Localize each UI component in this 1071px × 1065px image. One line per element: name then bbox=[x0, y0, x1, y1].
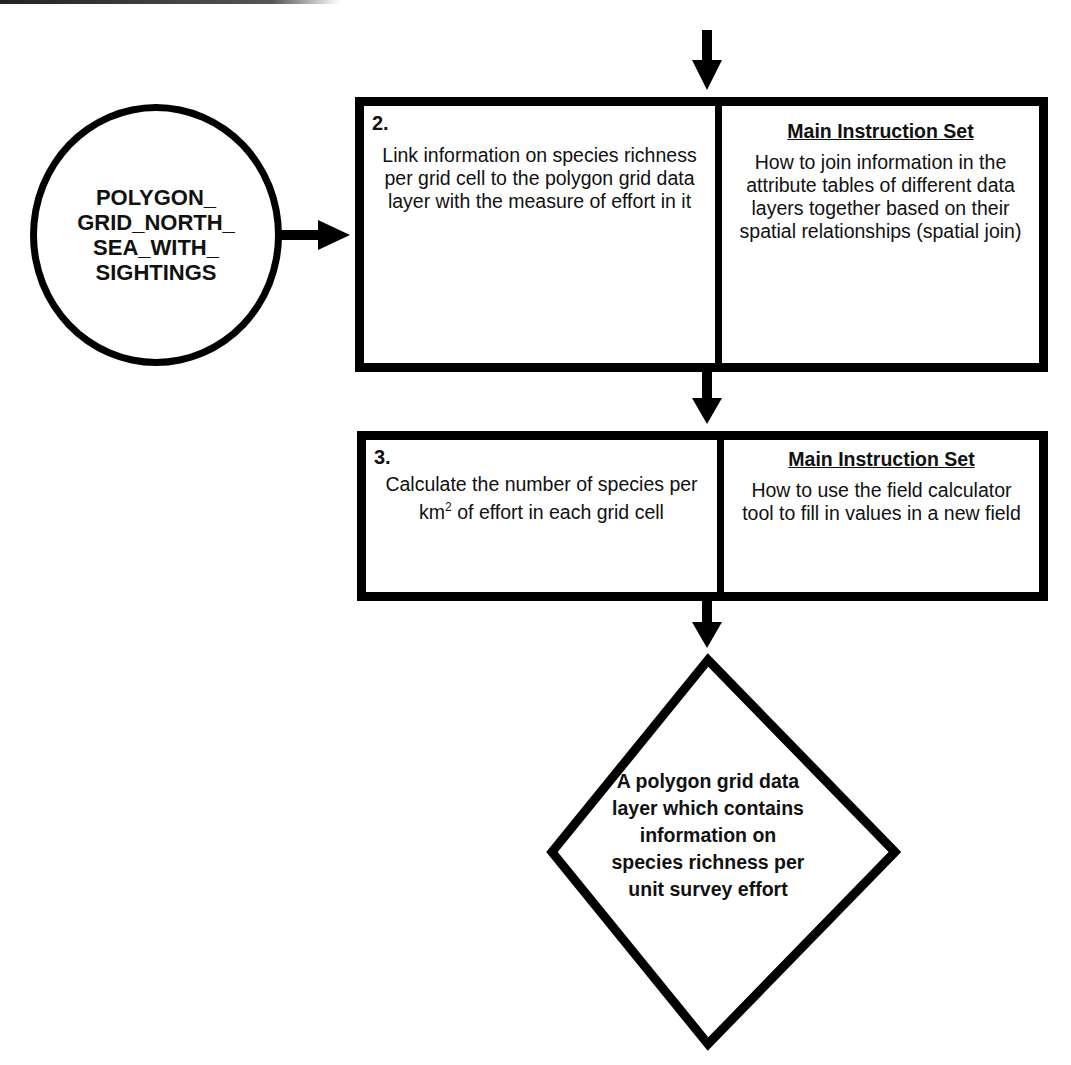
step-2-instruction-header: Main Instruction Set bbox=[732, 120, 1029, 143]
step-3-superscript: 2 bbox=[445, 500, 452, 514]
step-3-task-cell: 3. Calculate the number of species per k… bbox=[366, 440, 724, 592]
arrow-right-circle-to-step-2 bbox=[278, 220, 350, 250]
arrow-down-step-3-to-output bbox=[692, 598, 722, 648]
source-layer-node: POLYGON_ GRID_NORTH_ SEA_WITH_ SIGHTINGS bbox=[30, 104, 282, 366]
arrow-down-into-step-2 bbox=[692, 30, 722, 90]
step-3-instruction-header: Main Instruction Set bbox=[734, 448, 1029, 471]
step-3-box: 3. Calculate the number of species per k… bbox=[357, 431, 1048, 601]
step-2-number: 2. bbox=[372, 112, 389, 135]
arrow-down-step-2-to-step-3 bbox=[692, 368, 722, 424]
step-3-instruction-cell: Main Instruction Set How to use the fiel… bbox=[724, 440, 1039, 592]
step-3-instruction-text: How to use the field calculator tool to … bbox=[734, 479, 1029, 525]
step-3-description-part: of effort in each grid cell bbox=[452, 501, 664, 523]
step-3-number: 3. bbox=[374, 446, 391, 469]
step-2-instruction-text: How to join information in the attribute… bbox=[732, 151, 1029, 243]
step-3-description: Calculate the number of species per km2 … bbox=[376, 473, 707, 524]
step-2-box: 2. Link information on species richness … bbox=[355, 97, 1048, 372]
source-layer-label: POLYGON_ GRID_NORTH_ SEA_WITH_ SIGHTINGS bbox=[76, 185, 236, 285]
output-layer-label: A polygon grid data layer which contains… bbox=[608, 768, 808, 903]
step-2-task-cell: 2. Link information on species richness … bbox=[364, 106, 722, 363]
step-2-description: Link information on species richness per… bbox=[378, 144, 701, 213]
step-2-instruction-cell: Main Instruction Set How to join informa… bbox=[722, 106, 1039, 363]
